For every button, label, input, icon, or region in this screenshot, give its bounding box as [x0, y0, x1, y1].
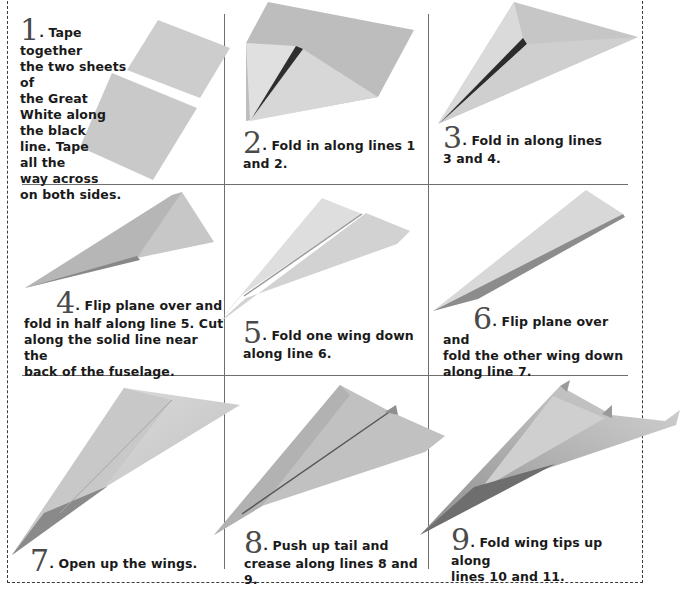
- step-2-text: . Fold in along lines 1 and 2.: [243, 138, 415, 171]
- step3-fold-illustration: [438, 2, 638, 124]
- step-6-text: . Flip plane over and fold the other win…: [443, 314, 623, 379]
- step2-fold-illustration: [246, 2, 414, 121]
- step-7-text: . Open up the wings.: [49, 556, 197, 571]
- step7-open-wings-illustration: [12, 388, 240, 555]
- step-3-number: 3: [443, 120, 462, 155]
- step-4-caption: 4. Flip plane over and fold in half alon…: [24, 290, 224, 380]
- step-6-caption: 6. Flip plane over and fold the other wi…: [443, 306, 633, 380]
- step-5-number: 5: [243, 315, 262, 350]
- step-2-number: 2: [243, 125, 262, 160]
- step-8-number: 8: [244, 525, 263, 560]
- step8-tail-illustration: [214, 385, 445, 535]
- step6-fold-illustration: [433, 190, 625, 311]
- step5-fold-illustration: [216, 198, 410, 325]
- step-1-text: . Tape together the two sheets of the Gr…: [20, 25, 126, 202]
- step-9-number: 9: [451, 522, 470, 557]
- step-8-caption: 8. Push up tail and crease along lines 8…: [244, 530, 434, 588]
- step-5-caption: 5. Fold one wing down along line 6.: [243, 320, 423, 362]
- step-6-number: 6: [473, 301, 492, 336]
- step-8-text: . Push up tail and crease along lines 8 …: [244, 538, 418, 587]
- step-4-text: . Flip plane over and fold in half along…: [24, 298, 223, 379]
- step-3-text: . Fold in along lines 3 and 4.: [443, 133, 602, 166]
- step-3-caption: 3. Fold in along lines 3 and 4.: [443, 125, 623, 167]
- step-9-caption: 9. Fold wing tips up along lines 10 and …: [451, 527, 641, 585]
- step-7-caption: 7. Open up the wings.: [30, 548, 220, 574]
- step-5-text: . Fold one wing down along line 6.: [243, 328, 414, 361]
- step9-wingtips-illustration: [420, 380, 680, 535]
- step4-fold-illustration: [25, 192, 214, 288]
- step-9-text: . Fold wing tips up along lines 10 and 1…: [451, 535, 602, 584]
- step-4-number: 4: [56, 285, 75, 320]
- step-1-caption: 1. Tape together the two sheets of the G…: [20, 17, 140, 203]
- step-7-number: 7: [30, 543, 49, 578]
- step-2-caption: 2. Fold in along lines 1 and 2.: [243, 130, 423, 172]
- step-1-number: 1: [20, 12, 39, 47]
